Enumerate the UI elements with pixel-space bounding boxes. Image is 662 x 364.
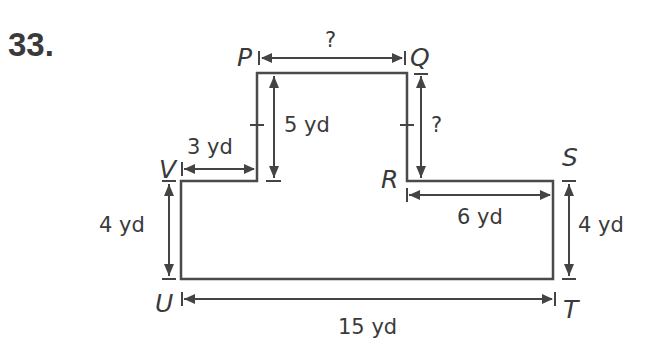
height-5yd-label: 5 yd: [284, 113, 330, 137]
dimension-5yd: 5 yd: [266, 76, 330, 181]
vertex-r-label: R: [381, 165, 398, 194]
dimension-3yd: 3 yd: [182, 135, 255, 176]
pq-label: ?: [325, 28, 336, 52]
width-15yd-label: 15 yd: [338, 315, 397, 339]
width-6yd-label: 6 yd: [457, 205, 503, 229]
height-right-4yd-label: 4 yd: [578, 213, 624, 237]
vertex-s-label: S: [562, 143, 578, 172]
dimension-15yd: 15 yd: [182, 292, 555, 339]
dimension-pq: ?: [259, 28, 405, 65]
vertex-q-label: Q: [410, 43, 430, 72]
figure-outline: [181, 73, 553, 279]
problem-number: 33.: [8, 26, 54, 63]
qr-label: ?: [431, 113, 442, 137]
dimension-left-4yd: 4 yd: [99, 181, 176, 279]
vertex-u-label: U: [155, 289, 173, 318]
vertex-p-label: P: [237, 43, 253, 72]
dimension-qr: ?: [414, 74, 442, 178]
composite-figure-diagram: 33. ? ? 5 yd 3 yd: [0, 0, 662, 364]
dimension-6yd: 6 yd: [407, 188, 551, 229]
vertex-t-label: T: [563, 295, 580, 324]
dimension-right-4yd: 4 yd: [562, 181, 624, 279]
vertex-v-label: V: [159, 155, 178, 184]
height-left-4yd-label: 4 yd: [99, 213, 145, 237]
width-3yd-label: 3 yd: [187, 135, 233, 159]
